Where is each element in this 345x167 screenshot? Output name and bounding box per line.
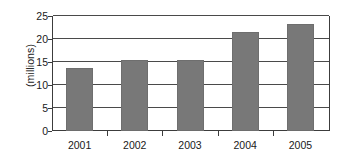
bars-layer: [52, 16, 328, 131]
y-axis-tick-labels: 0510152025: [28, 0, 48, 167]
x-axis-tick-label: 2004: [218, 138, 273, 152]
bar: [232, 32, 259, 131]
bar: [177, 60, 204, 131]
x-axis-tick-mark: [107, 131, 108, 136]
x-axis-tick-mark: [273, 131, 274, 136]
y-axis-tick-label: 20: [28, 34, 48, 45]
y-axis-tick-label: 15: [28, 57, 48, 68]
x-axis-tick-label: 2002: [107, 138, 162, 152]
y-axis-tick-label: 5: [28, 103, 48, 114]
bar: [121, 60, 148, 131]
y-axis-tick-label: 10: [28, 80, 48, 91]
x-axis-tick-marks: [52, 131, 328, 137]
x-axis-tick-label: 2005: [273, 138, 328, 152]
x-axis-tick-label: 2003: [162, 138, 217, 152]
x-axis-tick-label: 2001: [52, 138, 107, 152]
bar-chart: (millions) 0510152025 200120022003200420…: [0, 0, 345, 167]
x-axis-tick-mark: [218, 131, 219, 136]
bar: [66, 68, 93, 131]
x-axis-tick-labels: 20012002200320042005: [52, 138, 328, 154]
bar: [287, 24, 314, 131]
x-axis-tick-mark: [162, 131, 163, 136]
y-axis-tick-label: 0: [28, 126, 48, 137]
y-axis-tick-label: 25: [28, 11, 48, 22]
